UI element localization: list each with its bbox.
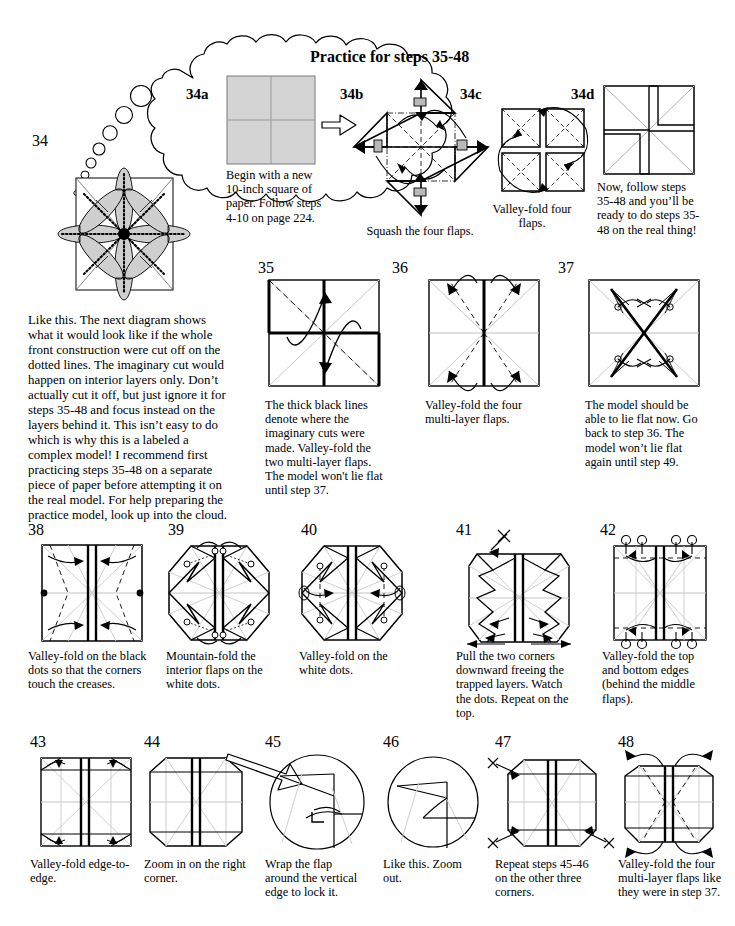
figure-34a <box>226 75 318 167</box>
caption-38: Valley-fold on the black dots so that th… <box>28 649 148 692</box>
caption-47: Repeat steps 45-46 on the other three co… <box>495 857 603 900</box>
caption-34d: Now, follow steps 35-48 and you’ll be re… <box>597 180 701 237</box>
figure-48 <box>617 752 729 854</box>
step-label-37: 37 <box>558 259 574 277</box>
figure-45 <box>262 752 372 854</box>
thought-bubble-icon <box>116 107 133 124</box>
step-label-41: 41 <box>456 521 472 539</box>
figure-35 <box>265 277 383 389</box>
caption-35: The thick black lines denote where the i… <box>265 398 383 497</box>
figure-38 <box>38 542 146 644</box>
cloud-title: Practice for steps 35-48 <box>310 48 469 66</box>
step-label-39: 39 <box>168 521 184 539</box>
caption-43: Valley-fold edge-to-edge. <box>30 857 132 885</box>
figure-34-flower <box>38 168 210 300</box>
step-label-34: 34 <box>32 132 48 150</box>
caption-44: Zoom in on the right corner. <box>144 857 248 885</box>
figure-36 <box>425 277 543 389</box>
step-label-40: 40 <box>301 521 317 539</box>
caption-34b: Squash the four flaps. <box>340 224 500 238</box>
figure-34c <box>494 105 594 197</box>
caption-34c: Valley-fold four flaps. <box>489 202 575 230</box>
step-label-46: 46 <box>383 733 399 751</box>
step-label-38: 38 <box>28 521 44 539</box>
step-label-45: 45 <box>265 733 281 751</box>
caption-48: Valley-fold the four multi-layer flaps l… <box>618 857 724 900</box>
thought-bubble-icon <box>86 158 96 168</box>
step-34-body-text: Like this. The next diagram shows what i… <box>28 313 228 523</box>
step-label-43: 43 <box>30 733 46 751</box>
caption-40: Valley-fold on the white dots. <box>299 649 391 677</box>
caption-46: Like this. Zoom out. <box>383 857 473 885</box>
step-label-44: 44 <box>144 733 160 751</box>
substep-label-34a: 34a <box>186 86 209 103</box>
caption-34a: Begin with a new 10-inch square of paper… <box>226 168 322 225</box>
figure-42 <box>608 536 714 646</box>
caption-37: The model should be able to lie flat now… <box>585 398 710 469</box>
figure-37 <box>585 277 703 389</box>
figure-46 <box>383 752 487 854</box>
caption-41: Pull the two corners downward freeing th… <box>456 649 574 720</box>
step-label-47: 47 <box>495 733 511 751</box>
caption-36: Valley-fold the four multi-layer flaps. <box>425 398 543 426</box>
figure-40 <box>298 542 406 644</box>
figure-47 <box>500 752 610 854</box>
figure-43 <box>35 752 139 852</box>
step-label-36: 36 <box>392 259 408 277</box>
origami-instruction-page: Practice for steps 35-48 34a Begin with … <box>0 0 735 926</box>
step-label-48: 48 <box>618 733 634 751</box>
caption-42: Valley-fold the top and bottom edges (be… <box>602 649 706 706</box>
substep-label-34d: 34d <box>571 86 594 103</box>
figure-34d <box>602 84 697 176</box>
thought-bubble-icon <box>93 143 105 155</box>
figure-41 <box>465 542 577 648</box>
thought-bubble-icon <box>131 86 152 107</box>
substep-label-34c: 34c <box>460 86 482 103</box>
caption-39: Mountain-fold the interior flaps on the … <box>166 649 276 692</box>
figure-39 <box>165 542 273 644</box>
caption-45: Wrap the flap around the vertical edge t… <box>265 857 369 900</box>
thought-bubble-icon <box>103 126 117 140</box>
step-label-35: 35 <box>258 259 274 277</box>
